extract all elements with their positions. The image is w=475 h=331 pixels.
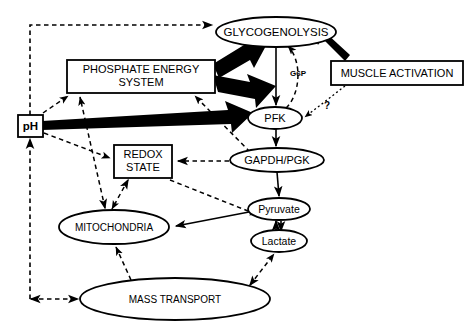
node-lactate-label: Lactate (262, 235, 297, 247)
node-phosphate-energy-system[interactable]: PHOSPHATE ENERGY SYSTEM (67, 60, 215, 93)
node-gapdh-pgk-label: GAPDH/PGK (244, 154, 310, 166)
node-pyruvate[interactable]: Pyruvate (248, 198, 310, 220)
node-pfk-label: PFK (264, 112, 286, 124)
thick-arrow-pes-to-pfk (213, 74, 276, 108)
node-glycogenolysis-label: GLYCOGENOLYSIS (223, 26, 328, 38)
edge-mass-transport-to-mitochondria (116, 247, 131, 280)
edge-gapdh-to-pyruvate (277, 172, 279, 196)
node-phosphate-energy-system-label-line1: PHOSPHATE ENERGY (83, 63, 200, 75)
node-redox-state-label-line2: STATE (126, 161, 160, 173)
thick-arrow-ph-to-pfk (42, 101, 253, 133)
edge-mass-transport-to-lactate (250, 254, 274, 285)
node-lactate[interactable]: Lactate (251, 230, 307, 252)
diagram-canvas: GLYCOGENOLYSIS PHOSPHATE ENERGY SYSTEM M… (0, 0, 475, 331)
metabolic-pathway-diagram: GLYCOGENOLYSIS PHOSPHATE ENERGY SYSTEM M… (0, 0, 475, 331)
edge-pyruvate-to-mitochondria (176, 212, 249, 226)
edge-mitochondria-to-pes (80, 97, 105, 208)
edge-ph-to-pes (43, 96, 68, 113)
edge-label-g6p: G6P (290, 69, 307, 78)
node-pfk[interactable]: PFK (248, 107, 302, 129)
edge-ph-to-redox (44, 133, 110, 158)
edge-label-question-mark: ? (324, 100, 330, 111)
node-ph-label: pH (23, 120, 38, 132)
node-phosphate-energy-system-label-line2: SYSTEM (118, 76, 163, 88)
node-muscle-activation[interactable]: MUSCLE ACTIVATION (331, 61, 463, 85)
edge-redox-to-pyruvate (170, 180, 258, 215)
node-gapdh-pgk[interactable]: GAPDH/PGK (230, 148, 324, 172)
node-mitochondria[interactable]: MITOCHONDRIA (59, 210, 169, 244)
node-pyruvate-label: Pyruvate (258, 203, 300, 215)
node-redox-state[interactable]: REDOX STATE (114, 145, 172, 178)
node-mass-transport[interactable]: MASS TRANSPORT (80, 278, 270, 320)
node-mitochondria-label: MITOCHONDRIA (75, 222, 153, 233)
node-muscle-activation-label: MUSCLE ACTIVATION (341, 67, 454, 79)
node-ph[interactable]: pH (18, 115, 43, 137)
node-redox-state-label-line1: REDOX (123, 148, 163, 160)
node-glycogenolysis[interactable]: GLYCOGENOLYSIS (216, 17, 336, 47)
edge-redox-to-mitochondria (112, 180, 128, 209)
node-mass-transport-label: MASS TRANSPORT (129, 294, 221, 305)
